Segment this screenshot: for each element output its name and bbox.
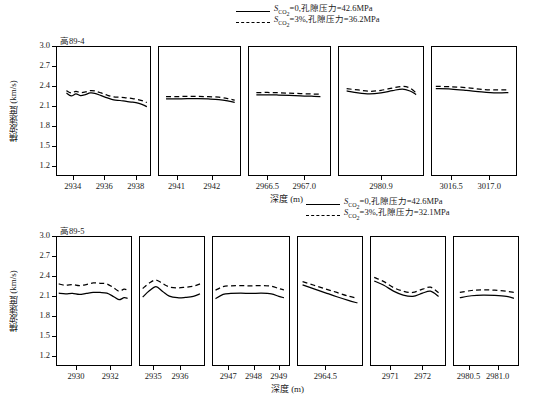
x-axis-tick-mark	[267, 176, 268, 180]
x-axis-tick-mark	[212, 176, 213, 180]
x-axis-tick-label: 3016.5	[439, 181, 462, 191]
figure-root: SCO2=0,孔隙压力=42.6MPaSCO2=3%,孔隙压力=36.2MPa …	[0, 0, 551, 411]
x-axis-tick-mark	[422, 366, 423, 370]
plot-panel-高89-4-2	[248, 46, 331, 176]
x-axis-tick-label: 2967.0	[293, 181, 316, 191]
legend-top: SCO2=0,孔隙压力=42.6MPaSCO2=3%,孔隙压力=36.2MPa	[236, 6, 380, 28]
chart-row-gao89-4: 横波速度 (km/s)3.02.72.42.11.81.51.2高89-4293…	[0, 36, 551, 196]
y-axis-tick-label: 1.5	[22, 330, 50, 340]
y-axis-tick-label: 2.7	[22, 250, 50, 260]
x-axis-tick-label: 2934	[64, 181, 81, 191]
x-axis-tick-mark	[136, 176, 137, 180]
y-axis-tick-label: 2.7	[22, 60, 50, 70]
x-axis-tick-label: 2964.5	[314, 371, 337, 381]
legend-bottom-label-1: SCO2=3%,孔隙压力=32.1MPa	[344, 207, 450, 224]
x-axis-tick-label: 2980.5	[457, 371, 480, 381]
x-axis-tick-label: 2981.0	[486, 371, 509, 381]
y-axis-tick-label: 3.0	[22, 40, 50, 50]
x-axis-label: 深度 (m)	[271, 382, 304, 395]
x-axis-tick-label: 2948	[245, 371, 262, 381]
plot-panel-高89-5-0	[56, 236, 132, 366]
x-axis-label: 深度 (m)	[270, 192, 303, 205]
x-axis-tick-mark	[498, 366, 499, 370]
plot-panel-高89-5-5	[453, 236, 519, 366]
x-axis-tick-label: 2941	[168, 181, 185, 191]
chart-row-gao89-5: 横波速度 (km/s)3.02.72.42.11.81.51.2高89-5293…	[0, 226, 551, 391]
x-axis-tick-label: 2972	[414, 371, 431, 381]
legend-top-label-1: SCO2=3%,孔隙压力=36.2MPa	[274, 14, 380, 31]
y-axis-label: 横波速度 (km/s)	[6, 46, 19, 176]
legend-bottom: SCO2=0,孔隙压力=42.6MPaSCO2=3%,孔隙压力=32.1MPa	[306, 199, 450, 221]
x-axis-tick-mark	[390, 366, 391, 370]
x-axis-tick-label: 2936	[96, 181, 113, 191]
y-axis-tick-label: 1.2	[22, 160, 50, 170]
x-axis-tick-mark	[110, 366, 111, 370]
legend-top-swatch-dashed-icon	[236, 22, 270, 23]
x-axis-tick-label: 2936	[172, 371, 189, 381]
plot-panel-高89-5-2	[212, 236, 290, 366]
x-axis-tick-mark	[76, 366, 77, 370]
x-axis-tick-mark	[304, 176, 305, 180]
x-axis-tick-label: 2949	[270, 371, 287, 381]
legend-bottom-swatch-dashed-icon	[306, 215, 340, 216]
x-axis-tick-mark	[489, 176, 490, 180]
x-axis-tick-mark	[325, 366, 326, 370]
y-axis-tick-label: 2.4	[22, 80, 50, 90]
y-axis-label: 横波速度 (km/s)	[6, 236, 19, 366]
y-axis-tick-label: 2.4	[22, 270, 50, 280]
x-axis-tick-mark	[177, 176, 178, 180]
x-axis-tick-mark	[381, 176, 382, 180]
legend-top-swatch-solid-icon	[236, 11, 270, 12]
plot-panel-高89-5-1	[139, 236, 205, 366]
x-axis-tick-mark	[451, 176, 452, 180]
panel-title-高89-4: 高89-4	[60, 34, 85, 46]
y-axis-tick-label: 1.8	[22, 120, 50, 130]
x-axis-tick-mark	[73, 176, 74, 180]
x-axis-tick-mark	[104, 176, 105, 180]
legend-bottom-item-1: SCO2=3%,孔隙压力=32.1MPa	[306, 210, 450, 221]
plot-panel-高89-4-3	[338, 46, 424, 176]
y-axis-tick-label: 2.1	[22, 290, 50, 300]
plot-panel-高89-4-4	[431, 46, 517, 176]
plot-panel-高89-4-1	[158, 46, 241, 176]
x-axis-tick-label: 2971	[382, 371, 399, 381]
plot-panel-高89-5-4	[370, 236, 446, 366]
x-axis-tick-mark	[153, 366, 154, 370]
plot-panel-高89-5-3	[297, 236, 363, 366]
plot-panel-高89-4-0	[56, 46, 151, 176]
y-axis-tick-label: 2.1	[22, 100, 50, 110]
x-axis-tick-label: 2980.9	[369, 181, 392, 191]
y-axis-tick-label: 1.5	[22, 140, 50, 150]
y-axis-tick-label: 1.2	[22, 350, 50, 360]
x-axis-tick-label: 2932	[102, 371, 119, 381]
panel-title-高89-5: 高89-5	[60, 224, 85, 236]
x-axis-tick-label: 2947	[220, 371, 237, 381]
x-axis-tick-mark	[180, 366, 181, 370]
y-axis-tick-label: 1.8	[22, 310, 50, 320]
x-axis-tick-label: 2938	[127, 181, 144, 191]
x-axis-tick-label: 2935	[145, 371, 162, 381]
x-axis-tick-mark	[279, 366, 280, 370]
x-axis-tick-label: 2966.5	[256, 181, 279, 191]
x-axis-tick-mark	[228, 366, 229, 370]
legend-top-item-1: SCO2=3%,孔隙压力=36.2MPa	[236, 17, 380, 28]
x-axis-tick-mark	[254, 366, 255, 370]
x-axis-tick-label: 2942	[203, 181, 220, 191]
x-axis-tick-label: 3017.0	[478, 181, 501, 191]
y-axis-tick-label: 3.0	[22, 230, 50, 240]
x-axis-tick-mark	[469, 366, 470, 370]
legend-bottom-swatch-solid-icon	[306, 204, 340, 205]
x-axis-tick-label: 2930	[67, 371, 84, 381]
